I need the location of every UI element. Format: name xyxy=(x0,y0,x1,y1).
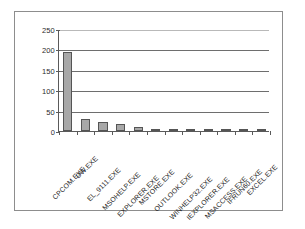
plot-area xyxy=(58,30,269,132)
x-tick-mark xyxy=(270,131,271,135)
bar-chart: 050100150200250 CPCOM.EXEDW.EXEEL_9111.E… xyxy=(15,12,282,210)
bar xyxy=(116,124,125,131)
y-tick-label: 150 xyxy=(42,66,55,75)
bar xyxy=(169,129,178,131)
bar xyxy=(239,129,248,131)
bar xyxy=(63,52,72,131)
y-tick-label: 200 xyxy=(42,46,55,55)
bar xyxy=(134,127,143,131)
bar xyxy=(257,129,266,131)
bar xyxy=(186,129,195,131)
bar-series xyxy=(59,30,269,131)
bar xyxy=(81,119,90,131)
bar xyxy=(98,122,107,131)
bar xyxy=(221,129,230,131)
y-tick-label: 0 xyxy=(51,128,55,137)
x-tick-label-text: EXPLORER.EXE xyxy=(116,174,160,218)
bar xyxy=(204,129,213,131)
figure-frame: 050100150200250 CPCOM.EXEDW.EXEEL_9111.E… xyxy=(14,11,283,211)
y-tick-label: 250 xyxy=(42,26,55,35)
y-axis-tick-labels: 050100150200250 xyxy=(29,30,55,132)
y-tick-label: 50 xyxy=(46,107,55,116)
x-axis-category-labels: CPCOM.EXEDW.EXEEL_9111.EXEMSOHELP.EXEEXP… xyxy=(58,133,269,211)
y-tick-label: 100 xyxy=(42,87,55,96)
bar xyxy=(151,129,160,131)
